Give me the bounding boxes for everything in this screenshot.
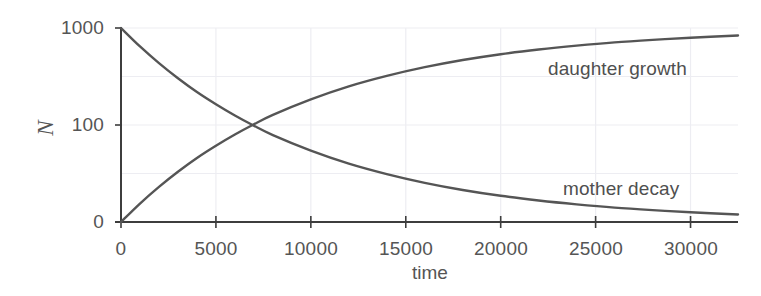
series-annotation-mother-decay: mother decay xyxy=(563,178,679,200)
xtick-label-10000: 10000 xyxy=(284,238,338,260)
xtick-label-0: 0 xyxy=(116,238,127,260)
ytick-label-0: 0 xyxy=(32,211,104,233)
chart-figure: 1000 100 0 0 5000 10000 15000 20000 2500… xyxy=(0,0,761,296)
y-axis-title: N xyxy=(33,120,59,135)
series-annotation-daughter-growth: daughter growth xyxy=(548,58,687,80)
xtick-label-20000: 20000 xyxy=(474,238,528,260)
xtick-label-30000: 30000 xyxy=(664,238,718,260)
ytick-label-1000: 1000 xyxy=(32,17,104,39)
xtick-label-25000: 25000 xyxy=(569,238,623,260)
x-axis-title: time xyxy=(412,262,448,284)
xtick-label-5000: 5000 xyxy=(194,238,237,260)
xtick-label-15000: 15000 xyxy=(379,238,433,260)
